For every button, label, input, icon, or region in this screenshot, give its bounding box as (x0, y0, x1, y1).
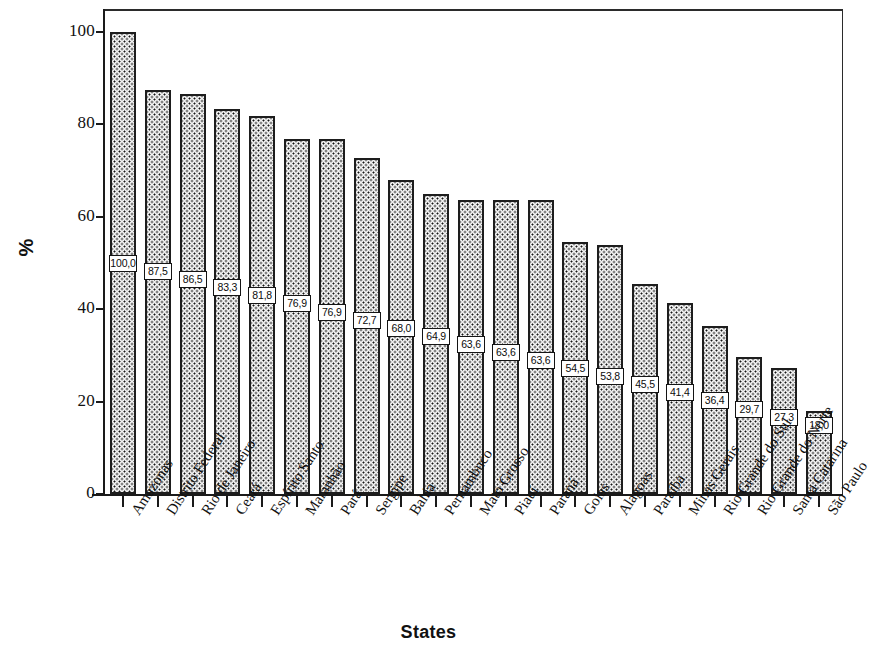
bar (145, 90, 171, 494)
x-axis-tick-mark (435, 496, 437, 507)
bar (180, 94, 206, 494)
bar (249, 116, 275, 494)
x-axis-tick-mark (644, 496, 646, 507)
bar-value-label: 86,5 (179, 271, 207, 288)
bar-value-label: 45,5 (631, 376, 659, 393)
bar-value-label: 63,6 (457, 336, 485, 353)
bar-value-label: 29,7 (735, 401, 763, 418)
x-axis-tick-mark (540, 496, 542, 507)
x-axis-tick-mark (783, 496, 785, 507)
x-axis-tick-mark (714, 496, 716, 507)
x-axis-tick-mark (505, 496, 507, 507)
bar-value-label: 81,8 (248, 287, 276, 304)
x-axis-tick-mark (331, 496, 333, 507)
x-axis-tick-mark (192, 496, 194, 507)
x-axis-tick-mark (679, 496, 681, 507)
bar-value-label: 76,9 (318, 304, 346, 321)
bar-value-label: 87,5 (144, 263, 172, 280)
x-axis-tick-mark (261, 496, 263, 507)
bar-value-label: 53,8 (596, 368, 624, 385)
bar (284, 139, 310, 494)
bar-value-label: 36,4 (701, 392, 729, 409)
x-axis-tick-mark (226, 496, 228, 507)
x-axis-title: States (0, 622, 857, 643)
bar-value-label: 68,0 (387, 320, 415, 337)
x-axis-tick-mark (366, 496, 368, 507)
x-axis-tick-mark (818, 496, 820, 507)
x-axis-tick-mark (157, 496, 159, 507)
bar-value-label: 100,0 (109, 255, 137, 272)
bar-value-label: 64,9 (422, 328, 450, 345)
bar-value-label: 54,5 (561, 360, 589, 377)
x-axis-tick-mark (122, 496, 124, 507)
bar-value-label: 72,7 (353, 312, 381, 329)
x-axis-tick-mark (574, 496, 576, 507)
bar-value-label: 83,3 (213, 279, 241, 296)
bar-value-label: 76,9 (283, 295, 311, 312)
x-axis-tick-mark (400, 496, 402, 507)
x-axis-tick-mark (748, 496, 750, 507)
bar-value-label: 63,6 (527, 352, 555, 369)
x-axis-tick-mark (296, 496, 298, 507)
bar-value-label: 41,4 (666, 384, 694, 401)
bar (528, 200, 554, 494)
x-axis-tick-mark (470, 496, 472, 507)
bar (388, 180, 414, 494)
bar-value-label: 63,6 (492, 344, 520, 361)
x-axis-tick-mark (609, 496, 611, 507)
